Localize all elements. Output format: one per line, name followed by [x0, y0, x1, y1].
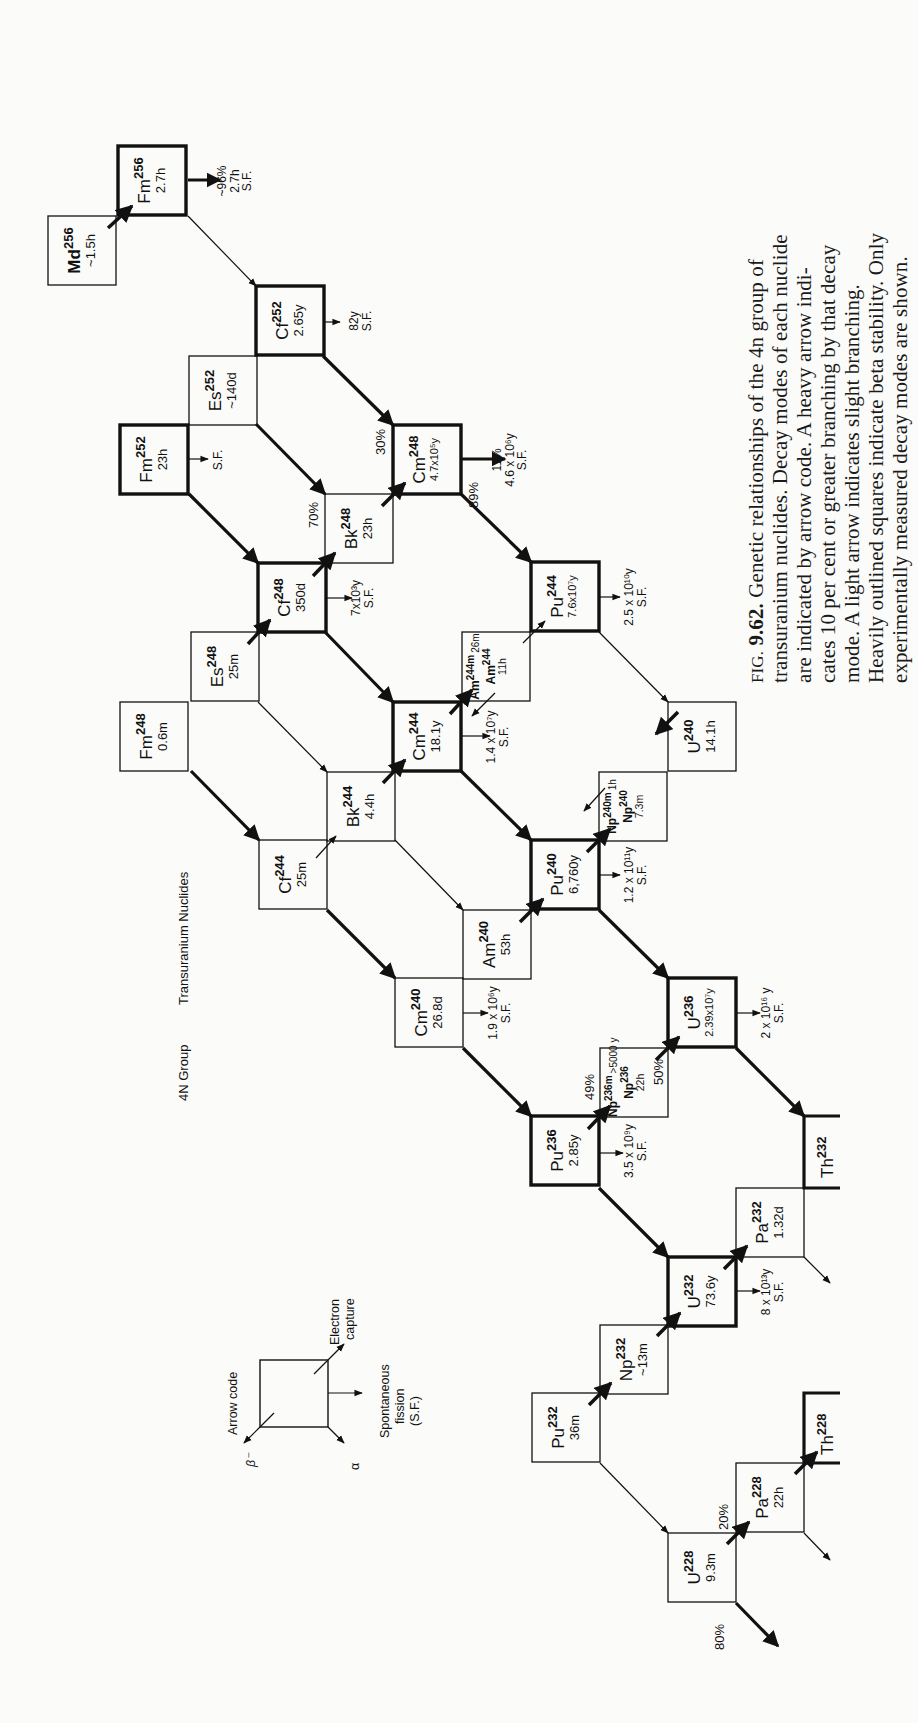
alpha-arrow-light	[804, 1533, 830, 1560]
sf-label-line: S.F.	[500, 973, 513, 1053]
nuclide-symbol: Pu	[548, 597, 567, 618]
nuclide-mass: 256	[131, 157, 146, 179]
sf-label-pu236: 3.5 x 10⁹yS.F.	[623, 1111, 648, 1191]
caption-line-5: mode. A light arrow indicates slight bra…	[840, 284, 865, 683]
nuclide-mass: 252	[269, 301, 284, 323]
sf-label-line: 82y	[348, 281, 361, 361]
nuclide-halflife: 4.7x10⁵y	[429, 425, 441, 494]
nuclide-label-pu236: Pu2362.85y	[545, 1116, 580, 1185]
sf-label-fm252: S.F.	[212, 420, 225, 500]
legend-title: Arrow code	[226, 1372, 240, 1435]
caption-line-7: experimentally measured decay modes are …	[888, 256, 913, 683]
nuclide-mass: 248	[133, 713, 148, 735]
nuclide-label-u236: U2362.39x10⁷y	[682, 978, 715, 1047]
nuclide-label-cf252: Cf2522.65y	[270, 286, 305, 355]
nuclide-halflife: ~1.5h	[84, 216, 98, 285]
nuclide-mass: 256	[61, 227, 76, 249]
nuclide-mass: 232	[814, 1136, 829, 1158]
nuclide-halflife: 18.1y	[429, 702, 443, 771]
branch-label-u228: 80%	[712, 1624, 727, 1650]
nuclide-halflife: 9.3m	[704, 1533, 718, 1602]
nuclide-mass: 236	[544, 1129, 559, 1151]
nuclide-label-np240: Np240m1hNp2407.3m	[603, 772, 645, 841]
nuclide-mass: 240	[618, 790, 629, 807]
nuclide-symbol: Bk	[342, 529, 361, 549]
nuclide-label-am244: Am244m26mAm24411h	[466, 632, 508, 701]
legend-ec-2: capture	[343, 1298, 357, 1340]
sf-label-line: 2.5 x 10¹⁰y	[623, 557, 636, 637]
nuclide-symbol: Cf	[273, 323, 292, 340]
nuclide-label-cm248: Cm2484.7x10⁵y	[407, 425, 440, 494]
sf-label-line: S.F.	[636, 835, 649, 915]
nuclide-mass: 236	[681, 996, 696, 1018]
nuclide-mass: 228	[814, 1413, 829, 1435]
nuclide-symbol: Pu	[549, 1428, 568, 1449]
nuclide-halflife: 23h	[156, 425, 170, 494]
nuclide-mass: 240	[476, 921, 491, 943]
nuclide-label-cm244: Cm24418.1y	[407, 702, 442, 771]
sf-label-line: S.F.	[363, 558, 376, 638]
nuclide-mass: 228	[681, 1551, 696, 1573]
nuclide-label-pa232: Pa2321.32d	[750, 1188, 785, 1257]
nuclide-symbol: Am	[480, 943, 499, 969]
nuclide-symbol: Bk	[344, 807, 363, 827]
sf-label-line: 1.9 x 10⁶y	[487, 973, 500, 1053]
nuclide-label-am240: Am24053h	[477, 910, 512, 979]
sf-label-line: 1.4 x 10⁷y	[485, 697, 498, 777]
nuclide-label-cf244: Cf24425m	[273, 840, 308, 909]
nuclide-symbol: Cm	[410, 734, 429, 760]
nuclide-mass: 244	[272, 855, 287, 877]
caption-line-4: cates 10 per cent or greater branching b…	[816, 245, 841, 683]
alpha-arrow-heavy	[256, 424, 325, 494]
nuclide-halflife: 25m	[295, 840, 309, 909]
nuclide-mass: 240	[681, 720, 696, 742]
nuclide-label-fm248: Fm2480.6m	[134, 702, 169, 771]
nuclide-halflife: 11h	[497, 632, 508, 701]
nuclide-symbol: Cf	[276, 877, 295, 894]
nuclide-label-pu244: Pu2447.6x10⁷y	[545, 562, 578, 631]
sf-label-line: S.F.	[361, 281, 374, 361]
nuclide-halflife: 7.6x10⁷y	[567, 562, 579, 631]
branch-label-u236: 50%	[651, 1059, 666, 1085]
caption-line-3: are indicated by arrow code. A heavy arr…	[792, 267, 817, 683]
nuclide-halflife: ~140d	[225, 356, 239, 425]
branch-label-cm248: 30%	[373, 429, 388, 455]
legend-ec-1: Electron	[328, 1299, 342, 1345]
nuclide-label-es248: Es24825m	[205, 632, 240, 701]
caption-fig-number: 9.62.	[744, 603, 768, 646]
nuclide-halflife: 6,760y	[567, 840, 581, 909]
sf-label-cm248: 11%4.6 x 10⁶yS.F.	[491, 420, 529, 500]
ec-arrow-heavy	[108, 206, 132, 228]
alpha-arrow-heavy	[599, 910, 668, 978]
nuclide-mass: 228	[749, 1476, 764, 1498]
nuclide-symbol: Fm	[135, 179, 154, 204]
nuclide-symbol: Cm	[410, 457, 429, 483]
nuclide-label-cf248: Cf248350d	[272, 563, 307, 632]
nuclide-symbol: Pu	[548, 875, 567, 896]
caption-line-6: Heavily outlined squares indicate beta s…	[864, 233, 889, 683]
sf-label-cf252: 82yS.F.	[348, 281, 373, 361]
legend-arrows	[244, 1344, 362, 1443]
sf-label-line: S.F.	[212, 420, 225, 500]
nuclide-symbol: Cf	[275, 600, 294, 617]
nuclide-label-es252: Es252~140d	[203, 356, 238, 425]
branch-label-u228: 20%	[716, 1504, 731, 1530]
nuclide-symbol: Es	[208, 667, 227, 687]
nuclide-label-u228: U2289.3m	[682, 1533, 717, 1602]
legend-sf-3: (S.F.)	[408, 1396, 422, 1426]
alpha-arrow-heavy	[191, 771, 259, 840]
sf-label-cf248: 7x10³yS.F.	[350, 558, 375, 638]
sf-label-line: 7x10³y	[350, 558, 363, 638]
sf-label-pu240: 1.2 x 10¹¹yS.F.	[623, 835, 648, 915]
nuclide-halflife: 22h	[635, 1048, 646, 1117]
legend-sf-2: fission	[393, 1389, 407, 1424]
nuclide-mass: 248	[271, 578, 286, 600]
alpha-arrow-heavy	[323, 356, 393, 425]
nuclide-mass: 244	[544, 575, 559, 597]
nuclide-symbol: Pu	[548, 1151, 567, 1172]
alpha-arrow-light	[188, 216, 256, 286]
branch-label-pu236: 49%	[582, 1074, 597, 1100]
nuclide-mass: 252	[202, 370, 217, 392]
nuclide-halflife: 36m	[568, 1393, 582, 1462]
nuclide-halflife: 53h	[499, 910, 513, 979]
